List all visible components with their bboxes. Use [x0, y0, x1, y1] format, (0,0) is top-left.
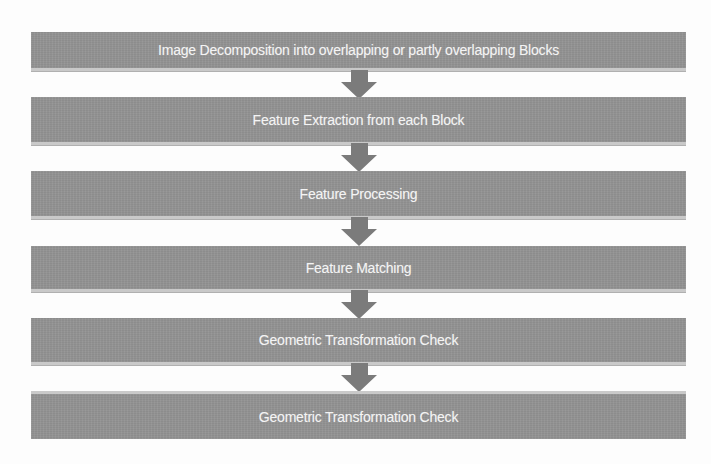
- step-label: Feature Extraction from each Block: [253, 112, 465, 128]
- step-feature-extraction: Feature Extraction from each Block: [31, 97, 686, 145]
- flowchart: Image Decomposition into overlapping or …: [0, 0, 711, 464]
- step-label: Image Decomposition into overlapping or …: [158, 42, 559, 58]
- step-geometric-transformation-check: Geometric Transformation Check: [31, 318, 686, 365]
- down-arrow-icon: [341, 217, 377, 247]
- down-arrow-icon: [341, 290, 377, 320]
- step-label: Feature Processing: [300, 186, 418, 202]
- step-label: Geometric Transformation Check: [259, 409, 458, 425]
- step-geometric-transformation-check-final: Geometric Transformation Check: [31, 391, 686, 439]
- step-feature-processing: Feature Processing: [31, 171, 686, 219]
- step-label: Geometric Transformation Check: [259, 332, 458, 348]
- step-image-decomposition: Image Decomposition into overlapping or …: [31, 32, 686, 71]
- step-feature-matching: Feature Matching: [31, 246, 686, 292]
- down-arrow-icon: [341, 70, 377, 100]
- step-label: Feature Matching: [306, 260, 412, 276]
- down-arrow-icon: [341, 143, 377, 173]
- down-arrow-icon: [341, 363, 377, 393]
